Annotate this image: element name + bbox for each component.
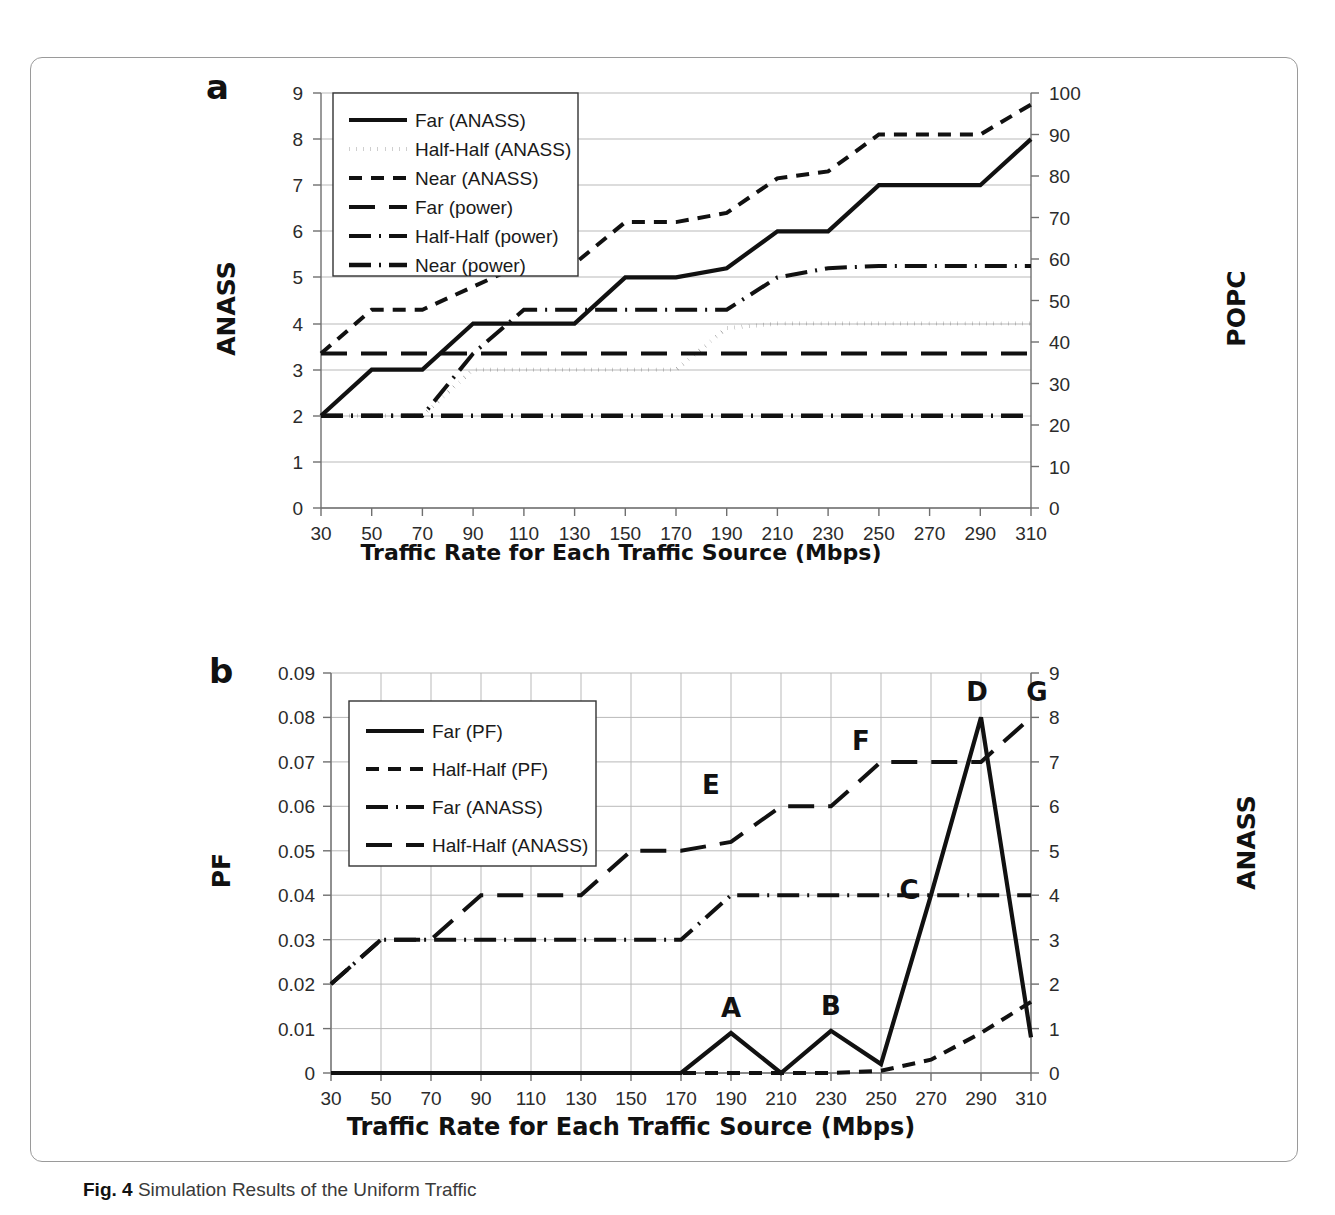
- legend-label: Far (ANASS): [432, 797, 543, 818]
- xtick: 230: [812, 523, 844, 544]
- y2tick: 100: [1049, 83, 1081, 104]
- ytick: 0.03: [278, 930, 315, 951]
- panel-b-y-left-ticklabels: 0.09 0.08 0.07 0.06 0.05 0.04 0.03 0.02 …: [278, 663, 315, 1084]
- panel-a-xticks: [321, 508, 1031, 516]
- xtick: 270: [914, 523, 946, 544]
- legend-label: Far (PF): [432, 721, 503, 742]
- xtick: 230: [815, 1088, 847, 1109]
- xtick: 170: [660, 523, 692, 544]
- ytick: 8: [292, 129, 303, 150]
- xtick: 310: [1015, 1088, 1047, 1109]
- xtick: 150: [615, 1088, 647, 1109]
- annotation-label: B: [821, 991, 841, 1021]
- xtick: 250: [863, 523, 895, 544]
- panel-a-y-right-ticklabels: 100 90 80 70 60 50 40 30 20 10 0: [1049, 83, 1081, 519]
- series-line: [321, 266, 1031, 416]
- y2tick: 20: [1049, 415, 1070, 436]
- ytick: 4: [292, 314, 303, 335]
- xtick: 70: [420, 1088, 441, 1109]
- xtick: 130: [559, 523, 591, 544]
- xtick: 130: [565, 1088, 597, 1109]
- xtick: 210: [765, 1088, 797, 1109]
- ytick: 0.01: [278, 1019, 315, 1040]
- ytick: 0: [304, 1063, 315, 1084]
- panel-b-legend[interactable]: Far (PF)Half-Half (PF)Far (ANASS)Half-Ha…: [349, 701, 596, 866]
- panel-b-annotations-group: ABCDEFG: [702, 677, 1048, 1023]
- xtick: 110: [509, 523, 539, 544]
- xtick: 50: [361, 523, 382, 544]
- ytick: 0.07: [278, 752, 315, 773]
- xtick: 150: [609, 523, 641, 544]
- legend-label: Far (ANASS): [415, 110, 526, 131]
- y2tick: 6: [1049, 796, 1060, 817]
- ytick: 0.05: [278, 841, 315, 862]
- y2tick: 90: [1049, 125, 1070, 146]
- xtick: 210: [762, 523, 794, 544]
- ytick: 6: [292, 221, 303, 242]
- y2tick: 4: [1049, 885, 1060, 906]
- xtick: 110: [516, 1088, 546, 1109]
- annotation-label: C: [899, 875, 918, 905]
- xtick: 50: [370, 1088, 391, 1109]
- xtick: 290: [965, 1088, 997, 1109]
- ytick: 5: [292, 267, 303, 288]
- ytick: 7: [292, 175, 303, 196]
- caption-text: Simulation Results of the Uniform Traffi…: [138, 1179, 477, 1200]
- xtick: 90: [463, 523, 484, 544]
- xtick: 170: [665, 1088, 697, 1109]
- y2tick: 10: [1049, 457, 1070, 478]
- ytick: 0.04: [278, 885, 315, 906]
- panel-b: b PF ANASS Traffic Rate for Each Traffic…: [31, 598, 1299, 1163]
- ytick: 0.09: [278, 663, 315, 684]
- y2tick: 40: [1049, 332, 1070, 353]
- xtick: 310: [1015, 523, 1047, 544]
- legend-label: Half-Half (PF): [432, 759, 548, 780]
- annotation-label: D: [966, 677, 988, 707]
- figure-frame: a ANASS POPC Traffic Rate for Each Traff…: [30, 57, 1298, 1162]
- panel-b-plot: 0.09 0.08 0.07 0.06 0.05 0.04 0.03 0.02 …: [221, 653, 1251, 1153]
- xtick: 250: [865, 1088, 897, 1109]
- xtick: 90: [470, 1088, 491, 1109]
- panel-a-legend[interactable]: Far (ANASS)Half-Half (ANASS)Near (ANASS)…: [333, 93, 578, 276]
- y2tick: 70: [1049, 208, 1070, 229]
- y2tick: 7: [1049, 752, 1060, 773]
- xtick: 270: [915, 1088, 947, 1109]
- xtick: 30: [320, 1088, 341, 1109]
- panel-a-y-left-ticklabels: 9 8 7 6 5 4 3 2 1 0: [292, 83, 303, 519]
- xtick: 290: [964, 523, 996, 544]
- ytick: 1: [292, 452, 303, 473]
- caption-label: Fig. 4: [83, 1179, 133, 1200]
- ytick: 0: [292, 498, 303, 519]
- xtick: 70: [412, 523, 433, 544]
- panel-b-y-right-ticklabels: 9 8 7 6 5 4 3 2 1 0: [1049, 663, 1060, 1084]
- y2tick: 30: [1049, 374, 1070, 395]
- y2tick: 50: [1049, 291, 1070, 312]
- ytick: 2: [292, 406, 303, 427]
- y2tick: 9: [1049, 663, 1060, 684]
- xtick: 190: [715, 1088, 747, 1109]
- legend-label: Half-Half (ANASS): [415, 139, 571, 160]
- panel-a-plot: 9 8 7 6 5 4 3 2 1 0 100 90 80 70 60 50 4…: [221, 68, 1251, 548]
- ytick: 3: [292, 360, 303, 381]
- ytick: 0.08: [278, 707, 315, 728]
- legend-label: Half-Half (power): [415, 226, 559, 247]
- panel-a-x-ticklabels: 30 50 70 90 110 130 150 170 190 210 230 …: [310, 523, 1046, 544]
- annotation-label: G: [1026, 677, 1047, 707]
- annotation-label: F: [852, 726, 870, 756]
- ytick: 9: [292, 83, 303, 104]
- annotation-label: A: [721, 993, 741, 1023]
- y2tick: 2: [1049, 974, 1060, 995]
- y2tick: 1: [1049, 1019, 1060, 1040]
- y2tick: 5: [1049, 841, 1060, 862]
- panel-b-x-ticklabels: 30 50 70 90 110 130 150 170 190 210 230 …: [320, 1088, 1046, 1109]
- y2tick: 0: [1049, 498, 1060, 519]
- y2tick: 60: [1049, 249, 1070, 270]
- ytick: 0.02: [278, 974, 315, 995]
- y2tick: 3: [1049, 930, 1060, 951]
- legend-label: Near (ANASS): [415, 168, 539, 189]
- legend-label: Far (power): [415, 197, 513, 218]
- y2tick: 8: [1049, 707, 1060, 728]
- ytick: 0.06: [278, 796, 315, 817]
- y2tick: 80: [1049, 166, 1070, 187]
- xtick: 30: [310, 523, 331, 544]
